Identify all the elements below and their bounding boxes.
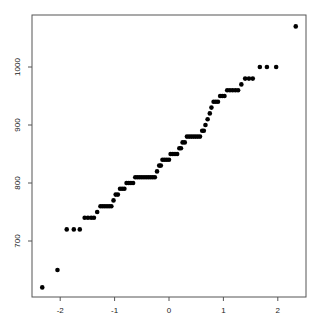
data-point bbox=[258, 65, 263, 70]
x-tick-label: -2 bbox=[57, 306, 65, 315]
plot-frame bbox=[32, 15, 306, 297]
data-point bbox=[202, 129, 207, 134]
data-point bbox=[95, 210, 100, 215]
data-point bbox=[131, 181, 136, 186]
plot-canvas: -2-10127008009001000 bbox=[0, 0, 322, 331]
data-point bbox=[208, 111, 213, 116]
x-tick-label: 1 bbox=[221, 306, 226, 315]
y-tick-label: 700 bbox=[13, 234, 22, 248]
data-point bbox=[222, 94, 227, 99]
data-point bbox=[236, 88, 241, 93]
data-point bbox=[64, 227, 69, 232]
data-point bbox=[167, 158, 172, 163]
data-point bbox=[92, 216, 97, 221]
data-point bbox=[153, 175, 158, 180]
data-point bbox=[175, 152, 180, 157]
data-point bbox=[77, 227, 82, 232]
data-point bbox=[116, 192, 121, 197]
data-point bbox=[155, 169, 160, 174]
y-tick-label: 1000 bbox=[13, 58, 22, 76]
data-point bbox=[182, 140, 187, 145]
data-point bbox=[250, 76, 255, 81]
qq-plot: -2-10127008009001000 bbox=[0, 0, 322, 331]
data-point bbox=[205, 117, 210, 122]
data-point bbox=[109, 204, 114, 209]
x-tick-label: -1 bbox=[111, 306, 119, 315]
data-point bbox=[203, 123, 208, 128]
x-tick-label: 2 bbox=[276, 306, 281, 315]
y-tick-label: 900 bbox=[13, 118, 22, 132]
data-point bbox=[40, 285, 45, 290]
data-point bbox=[72, 227, 77, 232]
x-tick-label: 0 bbox=[167, 306, 172, 315]
data-point bbox=[265, 65, 270, 70]
data-point bbox=[198, 134, 203, 139]
y-tick-label: 800 bbox=[13, 176, 22, 190]
data-point bbox=[55, 268, 60, 273]
data-point bbox=[293, 24, 298, 29]
data-point bbox=[159, 163, 164, 168]
data-point bbox=[209, 105, 214, 110]
data-point bbox=[111, 198, 116, 203]
data-point bbox=[274, 65, 279, 70]
data-point bbox=[239, 82, 244, 87]
data-point bbox=[179, 146, 184, 151]
data-point bbox=[122, 187, 127, 192]
data-point bbox=[216, 100, 221, 105]
